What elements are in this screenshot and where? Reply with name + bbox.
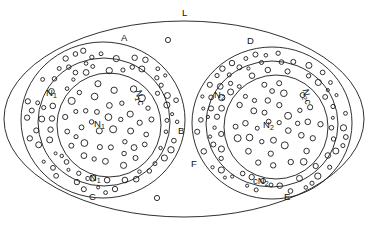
cell-point [159,83,163,87]
cell-point [72,78,75,81]
label-A: A [121,33,127,43]
cell-point [297,175,303,181]
cell-point [73,70,78,75]
label-sub-2: 2 [221,94,225,101]
cell-point [288,159,293,164]
cell-point [143,57,149,63]
cell-point [240,171,245,176]
cell-point [219,105,225,111]
cell-point [323,95,328,100]
cell-point [246,134,253,141]
cell-point [233,124,238,129]
cell-point [52,77,57,82]
cell-point [164,74,167,77]
cell-point [228,81,232,85]
cell-point [253,52,258,57]
cell-point [97,186,100,189]
cell-point [99,52,103,56]
cell-point [64,160,69,165]
cell-point [281,142,288,149]
cell-point [318,122,323,127]
cell-point [104,191,108,195]
cell-point [256,160,261,165]
label-cN-glyph: cN [253,175,265,186]
cell-point [277,120,281,124]
cell-point [112,186,117,191]
cell-point [260,139,264,143]
cell-point [265,67,270,72]
cell-point [285,69,290,74]
cell-point [291,59,296,64]
cell-point [269,183,273,187]
cell-point [29,108,34,113]
cell-point [54,152,57,155]
cell-point [34,128,39,133]
cell-point [306,74,310,78]
cell-point [343,135,348,140]
cell-point [315,173,321,179]
cell-point [128,128,134,134]
cell-point [207,82,212,87]
cell-point [69,143,74,148]
cell-point [27,136,32,141]
cell-point [219,156,223,160]
cell-point [214,114,219,119]
cell-point [260,60,264,64]
cell-point [133,155,138,160]
label-N-glyph: N [94,118,101,129]
cell-point [201,95,204,98]
cell-point [277,81,282,86]
cell-point [123,140,127,144]
cell-point [331,137,335,141]
cell-point [268,151,273,156]
label-sub-2: 2 [265,180,269,187]
label-sub-2: 2 [270,124,274,131]
cell-point [228,89,234,95]
cell-point [315,79,321,85]
cell-point [107,103,113,109]
diagram-svg [0,0,368,238]
cell-point [122,177,128,183]
cell-point [110,126,117,133]
cell-point [144,132,149,137]
cell-point [237,102,242,107]
cell-point [335,94,338,97]
cell-point [175,120,179,124]
cell-point [254,188,258,192]
cell-point [161,155,167,161]
cell-point [155,76,159,80]
cell-point [51,165,56,170]
cell-point [104,177,110,183]
cell-point [333,148,339,154]
cell-point [331,104,335,108]
cell-point [328,165,332,169]
cell-point [218,146,224,152]
cell-point [262,110,267,115]
cell-point [304,148,310,154]
cell-point [130,65,134,69]
label-N-glyph: N [46,87,53,98]
cell-point [270,163,275,168]
cell-point [108,145,113,150]
cell-point [41,77,45,81]
cell-point [49,116,54,121]
cell-point [91,93,98,100]
label-left-ring-cN1: cN1 [85,173,101,183]
cell-point [120,101,124,105]
region-right-core-outline [224,75,328,179]
label-sub-1: 1 [97,177,101,184]
cell-point [164,130,168,134]
cell-point [208,106,213,111]
cell-point [285,128,291,134]
cell-point [42,106,46,110]
cell-point [168,147,174,153]
cell-point [344,111,348,115]
label-E: E [284,192,290,202]
label-right-ring-N2: N2 [214,90,225,100]
cell-point [60,154,63,157]
cell-point [174,98,179,103]
cell-point [247,67,250,70]
cell-point [121,68,125,72]
cell-point [277,102,282,107]
label-right-core-N2: N2 [263,120,274,130]
